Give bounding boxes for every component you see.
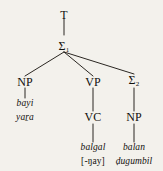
terminal-vc-suffix: [-ŋay] [81, 157, 105, 167]
node-t: T [60, 9, 68, 21]
syntax-tree-figure: T Σ1 NP VP Σ2 VC NP bayi yaṟa balgal [-ŋ… [0, 0, 163, 171]
terminal-vc-verb: balgal [81, 143, 106, 153]
terminal-balan: balan [123, 142, 145, 152]
terminal-balgal: balgal [81, 142, 106, 152]
terminal-np-object-noun: ḍugumbil [116, 157, 153, 167]
terminal-np-subject-noun: yaṟa [16, 113, 34, 123]
terminal-dugumbil: ḍugumbil [116, 156, 153, 166]
edge-sigma1-to-sigma2 [64, 52, 134, 74]
node-sigma-1-subscript: 1 [66, 46, 70, 54]
node-vp-label: VP [85, 75, 101, 89]
edge-sigma1-to-np1 [25, 52, 64, 76]
terminal-yara: yaṟa [16, 112, 34, 122]
node-np-subject: NP [17, 76, 33, 88]
node-vp: VP [85, 76, 101, 88]
node-sigma-2: Σ2 [129, 74, 140, 86]
node-sigma-1: Σ1 [59, 40, 70, 52]
node-vc: VC [84, 111, 101, 123]
terminal-ngay-suffix: [-ŋay] [81, 156, 105, 166]
edge-sigma1-to-vp [64, 52, 93, 76]
node-np-object-label: NP [126, 110, 142, 124]
node-np-object: NP [126, 111, 142, 123]
terminal-np-object-word: balan [123, 143, 145, 153]
terminal-bayi: bayi [17, 98, 34, 108]
node-t-label: T [60, 8, 68, 22]
node-sigma-2-subscript: 2 [136, 80, 140, 88]
terminal-np-subject-word: bayi [17, 99, 34, 109]
node-np-subject-label: NP [17, 75, 33, 89]
node-vc-label: VC [84, 110, 101, 124]
